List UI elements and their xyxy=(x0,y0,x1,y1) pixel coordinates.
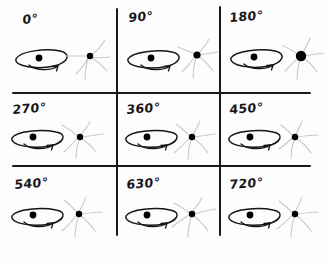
cell-label: 360° xyxy=(126,100,161,117)
cell-270: 270° xyxy=(0,94,116,165)
star-center-dot xyxy=(189,134,195,140)
spinning-disc xyxy=(126,131,177,150)
star-center-dot xyxy=(193,51,200,58)
cell-label: 720° xyxy=(229,175,264,192)
cell-630: 630° xyxy=(118,167,219,266)
cell-figure xyxy=(223,38,329,90)
cell-0: 0° xyxy=(0,0,116,92)
disc-center-dot xyxy=(148,55,155,62)
disc-center-dot xyxy=(251,54,258,61)
spinning-disc xyxy=(128,51,179,71)
spinning-disc xyxy=(229,131,280,150)
disc-center-dot xyxy=(247,212,254,219)
star-sparkle xyxy=(66,40,110,79)
disc-center-dot xyxy=(36,55,43,62)
disc-center-dot xyxy=(247,134,254,141)
star-sparkle xyxy=(277,197,318,237)
cell-360: 360° xyxy=(118,94,219,165)
cell-540: 540° xyxy=(0,167,116,266)
star-center-dot xyxy=(87,53,93,59)
cell-label: 450° xyxy=(229,100,264,117)
cell-figure xyxy=(120,199,221,247)
star-sparkle xyxy=(62,197,102,237)
cell-figure xyxy=(6,199,116,247)
star-center-dot xyxy=(292,211,298,217)
disc-center-dot xyxy=(144,212,151,219)
spinning-disc xyxy=(12,209,63,228)
sketch-canvas: 0° 90° xyxy=(0,0,329,266)
cell-figure xyxy=(6,122,116,166)
cell-figure xyxy=(223,199,329,247)
star-sparkle xyxy=(62,122,103,158)
cell-figure xyxy=(120,38,221,90)
star-center-dot xyxy=(292,134,298,140)
star-sparkle xyxy=(178,39,219,78)
disc-center-dot xyxy=(144,134,151,141)
spinning-disc xyxy=(126,209,177,228)
spinning-disc xyxy=(229,209,280,228)
cell-label: 630° xyxy=(126,175,161,192)
star-center-dot xyxy=(296,51,306,61)
cell-label: 90° xyxy=(128,8,154,25)
spinning-disc xyxy=(231,50,282,70)
cell-450: 450° xyxy=(221,94,329,165)
cell-figure xyxy=(120,122,221,166)
star-sparkle xyxy=(174,121,215,159)
star-center-dot xyxy=(189,211,195,217)
disc-center-dot xyxy=(30,212,37,219)
star-center-dot xyxy=(77,134,83,140)
cell-720: 720° xyxy=(221,167,329,266)
cell-label: 0° xyxy=(22,11,39,27)
star-sparkle xyxy=(172,198,216,237)
cell-label: 540° xyxy=(14,175,49,192)
cell-90: 90° xyxy=(118,0,219,92)
spinning-disc xyxy=(12,131,63,150)
cell-180: 180° xyxy=(221,0,329,92)
star-sparkle xyxy=(283,38,324,79)
cell-figure xyxy=(6,38,116,90)
cell-figure xyxy=(223,122,329,166)
cell-label: 270° xyxy=(12,100,47,117)
star-center-dot xyxy=(76,211,82,217)
cell-label: 180° xyxy=(229,8,264,25)
spinning-disc xyxy=(16,50,67,71)
disc-center-dot xyxy=(30,134,37,141)
star-sparkle xyxy=(279,121,318,158)
